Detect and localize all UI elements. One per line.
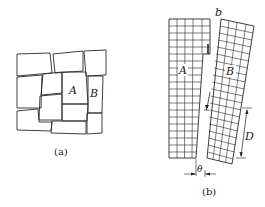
column-a-label: A — [178, 64, 187, 77]
block-a-label: A — [68, 84, 77, 97]
angle-dimension: θ — [184, 159, 216, 177]
slip-arrow — [204, 92, 210, 110]
block-b-label: B — [89, 87, 98, 100]
column-a-grid: A — [169, 19, 210, 158]
figure-canvas: A B (a) A — [0, 0, 265, 207]
caption-b: (b) — [202, 186, 216, 197]
angle-label: θ — [197, 164, 203, 174]
top-mark-label: b — [215, 6, 222, 19]
spacing-dimension: D — [236, 108, 254, 158]
spacing-label: D — [244, 130, 254, 143]
figure-a-blocks: A B — [17, 50, 106, 134]
column-b-label: B — [225, 65, 234, 78]
caption-a: (a) — [54, 146, 68, 157]
